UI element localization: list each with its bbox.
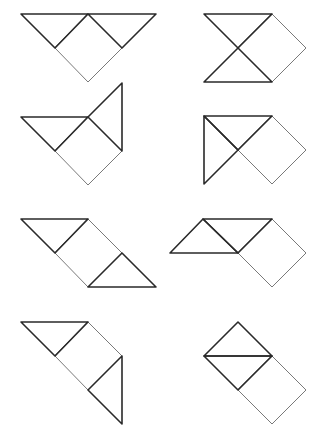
- triangle-piece: [204, 356, 272, 390]
- triangle-piece: [21, 322, 88, 356]
- triangle-piece: [204, 116, 272, 150]
- triangle-piece: [88, 14, 156, 48]
- figure-4: [204, 116, 306, 184]
- tangram-diagram-canvas: [0, 0, 323, 431]
- triangle-piece: [21, 219, 88, 253]
- figure-5: [21, 219, 156, 287]
- triangle-piece: [88, 83, 122, 151]
- triangle-piece: [204, 116, 238, 184]
- triangle-piece: [170, 219, 238, 253]
- square-piece: [55, 14, 122, 82]
- square-piece: [238, 356, 306, 424]
- square-piece: [238, 14, 306, 82]
- figures-layer: [21, 14, 306, 424]
- figure-1: [21, 14, 156, 82]
- square-piece: [55, 117, 122, 185]
- square-piece: [238, 219, 306, 287]
- figure-8: [204, 322, 306, 424]
- square-piece: [55, 322, 122, 390]
- figure-2: [204, 14, 306, 82]
- triangle-piece: [21, 14, 88, 48]
- triangle-piece: [204, 14, 272, 48]
- square-piece: [55, 219, 122, 287]
- triangle-piece: [204, 48, 272, 82]
- figure-7: [21, 322, 122, 424]
- triangle-piece: [204, 322, 272, 356]
- figure-6: [170, 219, 306, 287]
- triangle-piece: [88, 356, 122, 424]
- triangle-piece: [88, 253, 156, 287]
- square-piece: [238, 116, 306, 184]
- triangle-piece: [21, 117, 88, 151]
- figure-3: [21, 83, 122, 185]
- triangle-piece: [203, 219, 272, 253]
